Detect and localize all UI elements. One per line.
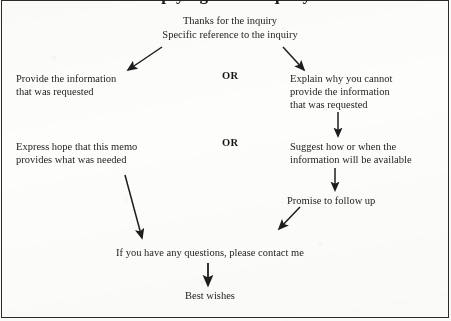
left-step-1: Provide the information that was request… [16, 72, 166, 98]
document-title-text: Replying to an inquiry [108, 0, 344, 4]
flowchart-page: Replying to an inquiry Thanks for the in… [0, 0, 451, 321]
or-label-second: OR [222, 137, 239, 148]
left-step-2: Express hope that this memo provides wha… [16, 140, 181, 166]
arrow-header-to-left [128, 47, 162, 70]
or-label-first: OR [222, 70, 239, 81]
header-line-2: Specific reference to the inquiry [140, 28, 320, 41]
closing-contact-line: If you have any questions, please contac… [85, 246, 335, 259]
header-line-1: Thanks for the inquiry [140, 14, 320, 27]
right-step-1: Explain why you cannot provide the infor… [290, 72, 440, 111]
right-step-2: Suggest how or when the information will… [290, 140, 445, 166]
arrow-header-to-right [283, 47, 304, 70]
closing-signoff: Best wishes [150, 289, 270, 302]
arrow-left-to-closing [125, 175, 142, 238]
document-title-cropped: Replying to an inquiry [108, 0, 344, 4]
right-step-3: Promise to follow up [287, 194, 437, 207]
arrow-right-to-closing [279, 207, 300, 229]
